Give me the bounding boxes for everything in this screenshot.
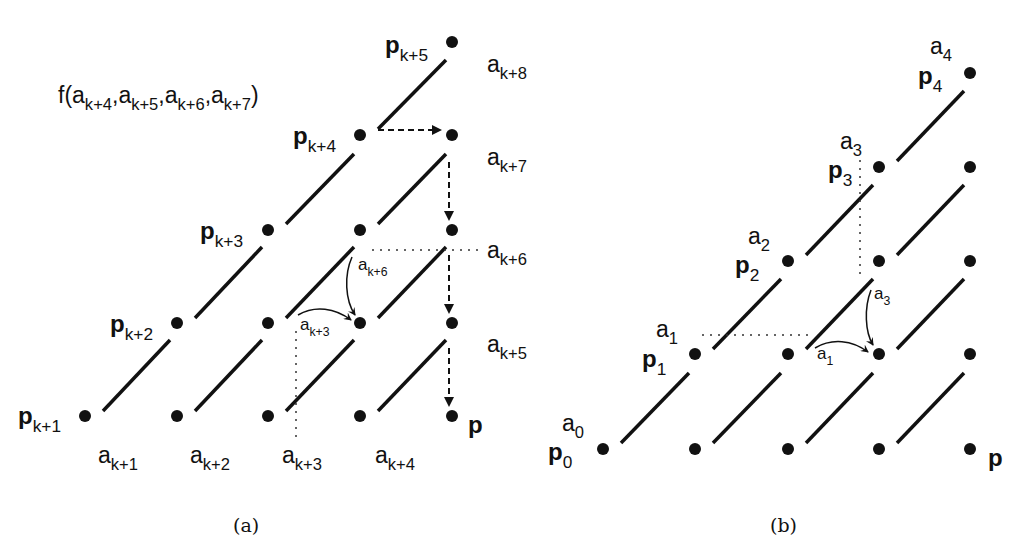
function-label: f(ak+4,ak+5,ak+6,ak+7) [58, 84, 259, 114]
bottom-label-ak2: ak+2 [190, 444, 230, 474]
point-label-p1: p1 [642, 347, 666, 378]
point-label-p-b: p [988, 446, 1003, 470]
bottom-label-ak3: ak+3 [282, 444, 322, 474]
right-label-ak6: ak+6 [487, 239, 527, 269]
a-label-a1: a1 [656, 318, 678, 348]
panel-b-curved-arrows [815, 290, 873, 352]
arrow-label-ak3: ak+3 [300, 316, 330, 338]
point-label-pk1: pk+1 [18, 404, 61, 435]
panel-b-dots [597, 67, 976, 455]
bottom-label-ak4: ak+4 [375, 444, 415, 474]
panel-b-diagonals [621, 91, 964, 443]
point-label-pk2: pk+2 [110, 312, 153, 343]
right-label-ak8: ak+8 [487, 53, 527, 83]
point-label-p0: p0 [548, 440, 572, 471]
arrow-label-ak6: ak+6 [358, 256, 388, 278]
a-label-a4: a4 [930, 35, 952, 65]
caption-a: (a) [233, 514, 259, 536]
point-label-p2: p2 [735, 253, 759, 284]
right-label-ak7: ak+7 [487, 146, 527, 176]
point-label-p: p [468, 413, 483, 437]
panel-a-curved-arrows [298, 257, 355, 320]
panel-a-dashed-arrows [378, 130, 449, 405]
point-label-pk4: pk+4 [293, 124, 336, 155]
a-label-a2: a2 [748, 225, 770, 255]
bottom-label-ak1: ak+1 [98, 444, 138, 474]
arrow-label-a3: a3 [874, 285, 890, 307]
caption-b: (b) [770, 514, 797, 536]
point-label-p4: p4 [918, 64, 942, 95]
arrow-label-a1: a1 [817, 345, 833, 367]
point-label-pk5: pk+5 [385, 33, 428, 64]
point-label-pk3: pk+3 [200, 219, 243, 250]
a-label-a3: a3 [840, 130, 862, 160]
a-label-a0: a0 [562, 412, 584, 442]
point-label-p3: p3 [828, 158, 852, 189]
right-label-ak5: ak+5 [487, 333, 527, 363]
